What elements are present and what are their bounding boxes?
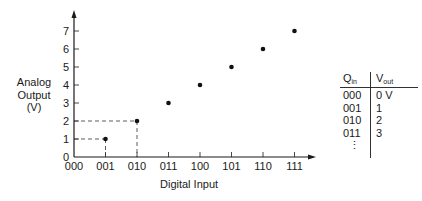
data-point: [292, 29, 297, 34]
table-cell-vout: 3: [376, 127, 393, 140]
y-tick-label: 7: [63, 25, 69, 37]
x-tick-label: 110: [254, 160, 272, 172]
table-cell-qin: 000: [343, 89, 361, 102]
x-tick-label: 101: [222, 160, 240, 172]
data-point: [135, 119, 140, 124]
table-cell-vout: 2: [376, 114, 393, 127]
x-tick-label: 000: [65, 160, 83, 172]
data-points: [103, 29, 297, 142]
table-cell-vout: 0 V: [376, 89, 393, 102]
x-tick-label: 001: [96, 160, 114, 172]
table-cell-vout: 1: [376, 102, 393, 115]
table-cell-qin: 010: [343, 114, 361, 127]
continuation-dots: ⋮: [343, 139, 361, 151]
x-axis-arrow-icon: [308, 155, 316, 160]
table-col-qin: Qin 000001010011 ⋮: [343, 72, 361, 151]
axes: [74, 14, 312, 157]
y-axis-label-line2: Output: [4, 89, 64, 102]
data-point: [103, 137, 108, 142]
y-tick-label: 6: [63, 43, 69, 55]
x-ticks: 000001010011100101110111: [65, 152, 303, 172]
data-point: [229, 65, 234, 70]
table-cell-qin: 011: [343, 127, 361, 140]
x-tick-label: 010: [128, 160, 146, 172]
y-tick-label: 2: [63, 115, 69, 127]
x-tick-label: 100: [191, 160, 209, 172]
x-axis-label: Digital Input: [160, 178, 218, 190]
y-tick-label: 1: [63, 133, 69, 145]
y-axis-arrow-icon: [72, 10, 77, 18]
y-tick-label: 5: [63, 61, 69, 73]
data-point: [198, 83, 203, 88]
y-axis-label-line1: Analog: [4, 76, 64, 89]
table-col-vout: Vout 0 V123: [376, 72, 393, 139]
x-tick-label: 011: [160, 160, 178, 172]
header-vout: Vout: [376, 72, 393, 87]
data-point: [166, 101, 171, 106]
y-ticks: 01234567: [63, 25, 79, 163]
data-point: [261, 47, 266, 52]
y-axis-label-line3: (V): [4, 101, 64, 114]
table-cell-qin: 001: [343, 102, 361, 115]
x-tick-label: 111: [286, 160, 303, 172]
header-qin: Qin: [343, 72, 361, 87]
y-axis-label: Analog Output (V): [4, 76, 64, 114]
